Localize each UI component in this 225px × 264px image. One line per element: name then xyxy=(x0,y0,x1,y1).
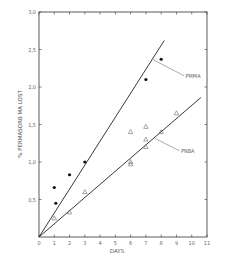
pmma-point xyxy=(144,78,147,81)
pmma-fit-line xyxy=(39,41,164,238)
y-tick-label: 0,5 xyxy=(28,197,36,203)
pmma-point xyxy=(54,202,57,205)
fit-lines xyxy=(39,41,201,238)
y-tick-label: 3,0 xyxy=(28,9,36,15)
x-tick-label: 11 xyxy=(204,240,210,246)
pnba-point xyxy=(144,137,148,141)
pmma-point xyxy=(68,173,71,176)
pnba-fit-line xyxy=(39,98,201,238)
x-tick-label: 7 xyxy=(144,240,147,246)
x-tick-label: 6 xyxy=(129,240,132,246)
x-tick-label: 0 xyxy=(37,240,40,246)
pnba-point xyxy=(174,111,178,115)
pmma-point xyxy=(83,160,86,163)
pnba-point xyxy=(52,216,56,220)
pnba-point xyxy=(83,190,87,194)
x-tick-label: 2 xyxy=(68,240,71,246)
x-tick-label: 5 xyxy=(114,240,117,246)
pmma-leader-line xyxy=(153,60,184,76)
y-tick-label: 1,0 xyxy=(28,159,36,165)
y-axis-title: % PERMASORB MA LOST xyxy=(17,90,23,158)
plot-border xyxy=(39,12,207,237)
pmma-label: PMMA xyxy=(186,73,202,79)
x-tick-label: 4 xyxy=(99,240,102,246)
pnba-leader-line xyxy=(155,138,180,150)
data-points xyxy=(52,58,179,220)
pnba-point xyxy=(128,130,132,134)
x-tick-label: 8 xyxy=(160,240,163,246)
y-tick-label: 2,5 xyxy=(28,47,36,53)
pnba-point xyxy=(144,124,148,128)
x-axis-title: DAYS xyxy=(110,248,125,254)
y-tick-label: 1,5 xyxy=(28,122,36,128)
pmma-point xyxy=(160,58,163,61)
x-tick-label: 9 xyxy=(175,240,178,246)
series-labels: PMMAPNBA xyxy=(153,60,201,154)
pmma-point xyxy=(53,186,56,189)
pnba-label: PNBA xyxy=(181,148,195,154)
x-tick-label: 10 xyxy=(189,240,195,246)
x-tick-label: 3 xyxy=(83,240,86,246)
x-tick-label: 1 xyxy=(53,240,56,246)
plot-frame xyxy=(39,12,207,237)
y-tick-label: 2,0 xyxy=(28,84,36,90)
scatter-chart: 012345678910110,51,01,52,02,53,0 PMMAPNB… xyxy=(0,0,225,264)
